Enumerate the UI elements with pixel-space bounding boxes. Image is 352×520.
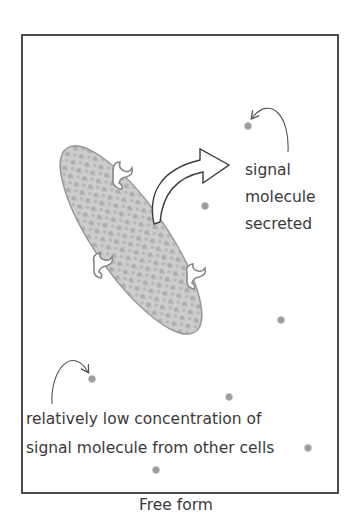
figure-caption: Free form <box>0 496 352 514</box>
signal-molecule <box>245 123 252 130</box>
label-line: signal molecule from other cells <box>26 434 274 463</box>
low-concentration-label: relatively low concentration of signal m… <box>26 405 274 463</box>
signal-molecule-secreted-label: signal molecule secreted <box>245 157 316 238</box>
signal-molecule <box>305 445 312 452</box>
signal-molecule <box>202 203 209 210</box>
pointer-arrow-low-concentration <box>52 361 88 404</box>
signal-molecule <box>226 394 233 401</box>
label-line: secreted <box>245 211 316 238</box>
label-line: relatively low concentration of <box>26 405 274 434</box>
signal-molecule <box>153 467 160 474</box>
secretion-arrow <box>152 149 229 224</box>
signal-molecule <box>89 376 96 383</box>
signal-molecule <box>278 317 285 324</box>
label-line: molecule <box>245 184 316 211</box>
label-line: signal <box>245 157 316 184</box>
pointer-arrow-secreted <box>252 108 288 152</box>
